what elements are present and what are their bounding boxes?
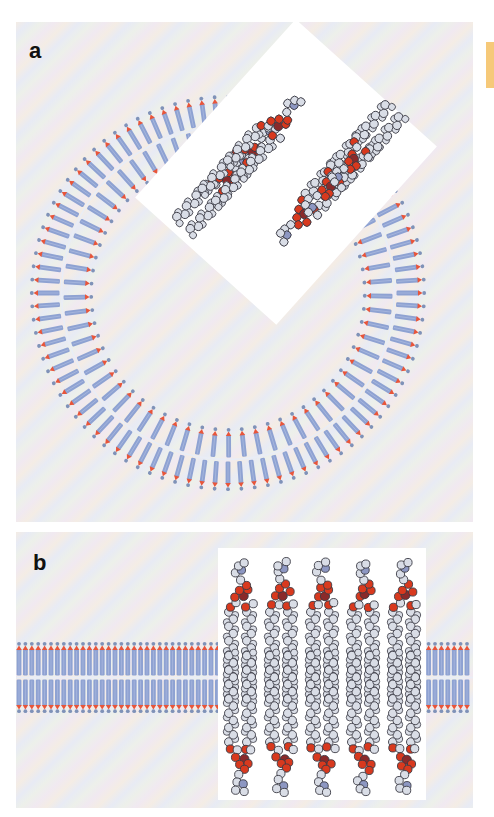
panel-label-a: a — [29, 40, 41, 62]
page-edge-tab — [486, 42, 494, 88]
bilayer-illustration — [16, 532, 473, 808]
molecular-inset-b — [218, 548, 426, 800]
panel-a-vesicle: a — [16, 22, 473, 522]
vesicle-illustration — [16, 22, 473, 522]
panel-b-planar-bilayer: b — [16, 532, 473, 808]
panel-label-b: b — [33, 552, 46, 574]
